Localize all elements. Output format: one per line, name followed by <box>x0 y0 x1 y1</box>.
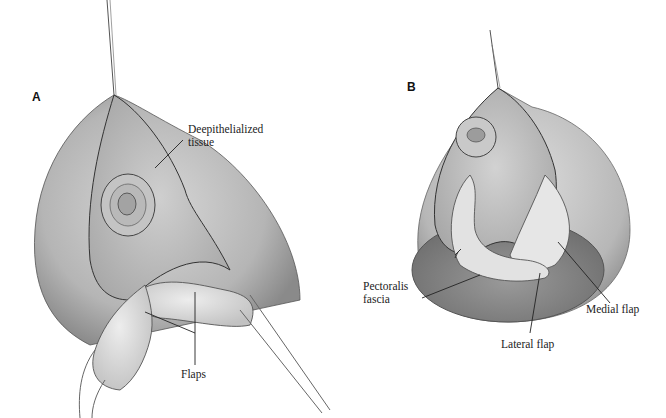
label-pectoralis-fascia: Pectoralis fascia <box>363 280 408 306</box>
label-medial-flap: Medial flap <box>586 303 639 316</box>
label-deepithelialized: Deepithelialized tissue <box>188 123 263 149</box>
label-flaps: Flaps <box>181 368 206 381</box>
panel-a-illustration: A Deepithelialized tissue Flaps <box>0 0 340 418</box>
label-deepithelialized-line2: tissue <box>188 136 263 149</box>
breast-deepithelialization-drawing <box>0 0 340 418</box>
breast-flap-placement-drawing <box>340 0 666 418</box>
panel-b-illustration: B Pectoralis fascia Medial flap Lateral … <box>340 0 666 418</box>
label-pectoralis-line1: Pectoralis <box>363 280 408 293</box>
label-pectoralis-line2: fascia <box>363 293 408 306</box>
label-deepithelialized-line1: Deepithelialized <box>188 123 263 136</box>
panel-letter-a: A <box>32 90 41 104</box>
panel-letter-b: B <box>407 80 416 94</box>
label-lateral-flap: Lateral flap <box>501 338 554 351</box>
